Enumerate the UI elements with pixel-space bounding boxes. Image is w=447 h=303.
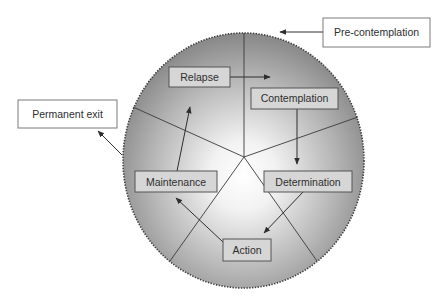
cycle-of-change-diagram: Pre-contemplation Permanent exit Relapse…	[0, 0, 447, 303]
maintenance-box: Maintenance	[135, 171, 217, 192]
action-box: Action	[223, 239, 271, 261]
contemplation-label: Contemplation	[261, 92, 329, 104]
action-label: Action	[232, 244, 261, 256]
arrow-wheel-to-permanent-exit	[98, 131, 122, 155]
contemplation-box: Contemplation	[251, 88, 338, 109]
determination-label: Determination	[275, 176, 341, 188]
relapse-label: Relapse	[180, 71, 219, 83]
precontemplation-label: Pre-contemplation	[334, 26, 419, 38]
permanent-exit-label: Permanent exit	[32, 108, 103, 120]
permanent-exit-box: Permanent exit	[18, 100, 117, 128]
precontemplation-box: Pre-contemplation	[323, 18, 430, 47]
relapse-box: Relapse	[169, 67, 230, 87]
maintenance-label: Maintenance	[146, 176, 206, 188]
determination-box: Determination	[264, 171, 352, 192]
